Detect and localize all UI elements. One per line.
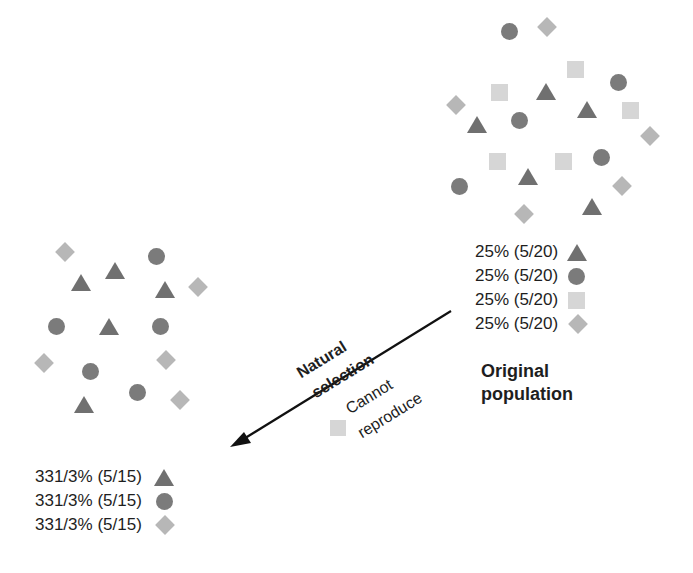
legend-row-circle: 331/3% (5/15): [35, 489, 174, 513]
legend-label: 331/3% (5/15): [35, 513, 142, 537]
legend-row-diamond: 331/3% (5/15): [35, 513, 174, 537]
triangle-icon: [154, 469, 174, 486]
legend-label: 331/3% (5/15): [35, 465, 142, 489]
circle-shape: [48, 318, 65, 335]
legend-row-triangle: 331/3% (5/15): [35, 465, 174, 489]
triangle-shape: [99, 318, 119, 335]
triangle-shape: [105, 262, 125, 279]
legend-label: 331/3% (5/15): [35, 489, 142, 513]
circle-shape: [152, 318, 169, 335]
diamond-icon: [155, 515, 175, 535]
selected-population-legend: 331/3% (5/15) 331/3% (5/15) 331/3% (5/15…: [35, 465, 174, 537]
triangle-shape: [71, 274, 91, 291]
circle-shape: [129, 384, 146, 401]
circle-icon: [156, 493, 173, 510]
triangle-shape: [155, 281, 175, 298]
triangle-shape: [74, 396, 94, 413]
natural-selection-diagram: 25% (5/20) 25% (5/20) 25% (5/20) 25% (5/…: [0, 0, 693, 573]
circle-shape: [82, 363, 99, 380]
circle-shape: [148, 248, 165, 265]
cannot-reproduce-square-icon: [330, 420, 346, 436]
